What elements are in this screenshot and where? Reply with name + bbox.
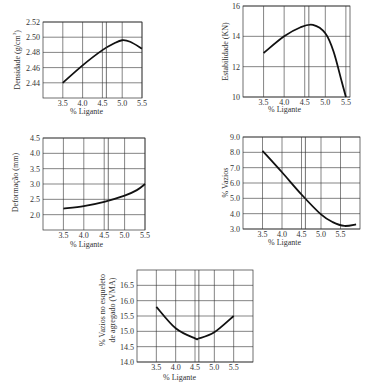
- x-tick: 5.0: [316, 230, 326, 239]
- y-tick: 4.0: [30, 149, 40, 158]
- y-tick: 16.0: [120, 297, 134, 306]
- y-tick: 16: [232, 2, 240, 11]
- x-tick: 5.0: [117, 99, 127, 108]
- x-tick: 4.0: [78, 99, 88, 108]
- y-tick: 15.5: [120, 312, 134, 321]
- y-tick: 7.0: [230, 164, 240, 173]
- x-tick: 4.0: [277, 230, 287, 239]
- x-tick: 4.5: [300, 98, 310, 107]
- vazios-chart: 3.54.04.55.05.53.04.05.06.07.08.09.0: [230, 133, 360, 239]
- data-curve: [263, 151, 357, 226]
- x-tick: 4.5: [297, 230, 307, 239]
- x-tick: 5.5: [137, 99, 147, 108]
- x-tick: 4.0: [279, 98, 289, 107]
- y-tick: 2.44: [26, 79, 40, 88]
- y-tick: 5.0: [230, 194, 240, 203]
- x-tick: 5.0: [320, 98, 330, 107]
- y-tick: 14.0: [120, 358, 134, 367]
- x-tick: 5.5: [336, 230, 346, 239]
- y-tick: 10: [232, 93, 240, 102]
- y-tick: 4.0: [230, 210, 240, 219]
- y-tick: 8.0: [230, 148, 240, 157]
- y-tick: 3.0: [230, 225, 240, 234]
- y-tick: 2.46: [26, 64, 40, 73]
- x-tick: 3.5: [258, 230, 268, 239]
- x-tick: 5.5: [229, 363, 239, 372]
- x-tick: 3.5: [151, 363, 161, 372]
- y-tick: 2.52: [26, 18, 40, 27]
- y-tick: 2.48: [26, 48, 40, 57]
- plot-frame: [43, 22, 142, 98]
- x-tick: 3.5: [259, 98, 269, 107]
- x-tick: 4.5: [99, 231, 109, 240]
- y-tick: 3.5: [30, 165, 40, 174]
- y-tick: 9.0: [230, 133, 240, 142]
- x-tick: 5.5: [341, 98, 351, 107]
- y-tick: 3.0: [30, 180, 40, 189]
- y-tick: 4.5: [30, 134, 40, 143]
- y-tick: 2.0: [30, 211, 40, 220]
- y-tick: 6.0: [230, 179, 240, 188]
- y-tick: 12: [232, 63, 240, 72]
- deformacao-chart: 3.54.04.55.05.52.02.53.03.54.04.5: [30, 134, 150, 240]
- x-tick: 4.5: [190, 363, 200, 372]
- y-tick: 14: [232, 32, 240, 41]
- vma-chart: 3.54.04.55.05.514.014.515.015.516.016.5: [120, 270, 253, 372]
- charts-canvas: 3.54.04.55.05.52.442.462.482.502.523.54.…: [0, 0, 365, 390]
- x-tick: 5.5: [140, 231, 150, 240]
- x-tick: 3.5: [58, 99, 68, 108]
- densidade-chart: 3.54.04.55.05.52.442.462.482.502.52: [26, 18, 147, 108]
- x-tick: 4.0: [79, 231, 89, 240]
- x-tick: 4.5: [97, 99, 107, 108]
- y-tick: 16.5: [120, 281, 134, 290]
- y-tick: 2.5: [30, 195, 40, 204]
- x-tick: 5.0: [120, 231, 130, 240]
- y-tick: 14.5: [120, 343, 134, 352]
- y-tick: 2.50: [26, 33, 40, 42]
- estabilidade-chart: 3.54.04.55.05.510121416: [232, 2, 351, 107]
- x-tick: 5.0: [209, 363, 219, 372]
- y-tick: 15.0: [120, 327, 134, 336]
- x-tick: 3.5: [58, 231, 68, 240]
- x-tick: 4.0: [171, 363, 181, 372]
